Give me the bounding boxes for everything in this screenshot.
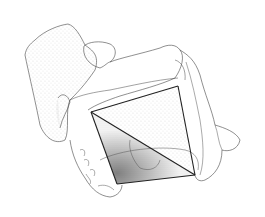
- pelvis-drawing: [0, 0, 265, 217]
- illustration: Anatomical pen-and-ink illustration of a…: [0, 0, 265, 217]
